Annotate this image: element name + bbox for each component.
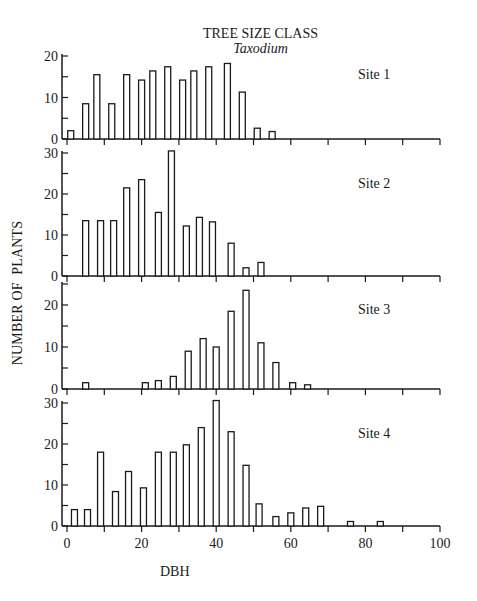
y-tick-label: 20 [44,298,58,313]
x-axis-label: DBH [160,564,190,580]
y-tick-label: 20 [44,187,58,202]
histogram-bar [155,381,161,389]
histogram-bar [228,311,234,389]
histogram-bar [150,71,156,139]
histogram-bar [318,506,324,526]
histogram-bar [98,221,104,276]
histogram-bar [228,243,234,276]
y-tick-label: 20 [44,437,58,452]
histogram-bar [98,452,104,526]
histogram-bar [258,343,264,389]
y-tick-label: 30 [44,396,58,411]
histogram-bar [254,128,260,139]
chart-subtitle: Taxodium [22,41,477,57]
histogram-bar [139,180,145,276]
histogram-bar [165,67,171,139]
histogram-bar [243,268,249,276]
y-axis-label: NUMBER OF PLANTS [10,208,26,378]
histogram-bar [142,383,148,389]
site-1-label: Site 1 [358,67,390,83]
histogram-bar [305,385,311,389]
histogram-bar [224,63,230,139]
histogram-bar [180,80,186,139]
histogram-bar [269,132,275,139]
histogram-bar [85,510,91,526]
y-tick-label: 0 [51,382,58,397]
histogram-bar [185,351,191,389]
histogram-bar [170,376,176,389]
histogram-bar [209,222,215,276]
x-tick-label: 60 [284,536,298,551]
y-tick-label: 10 [44,340,58,355]
histogram-bar [288,513,294,526]
x-tick-label: 80 [358,536,372,551]
y-tick-label: 0 [51,519,58,534]
y-tick-label: 10 [44,228,58,243]
histogram-bar [71,510,77,526]
histogram-bar [243,465,249,526]
histogram-bar [83,383,89,389]
histogram-bar [206,67,212,139]
y-tick-label: 30 [44,146,58,161]
histogram-bar [112,492,118,526]
histogram-bar [83,104,89,139]
histogram-bar [124,75,130,139]
histogram-bar [239,92,245,139]
site-4-label: Site 4 [358,426,390,442]
histogram-bar [139,80,145,139]
histogram-bar [94,75,100,139]
y-tick-label: 0 [51,269,58,284]
x-tick-label: 100 [430,536,451,551]
histogram-bar [124,188,130,276]
histogram-bar [126,471,132,526]
histogram-bar [213,347,219,389]
histogram-bar [347,521,353,526]
histogram-bar [109,104,115,139]
histogram-bar [377,521,383,526]
histogram-bar [200,339,206,389]
histogram-bar [290,383,296,389]
histogram-bar [256,504,262,526]
histogram-bar [258,262,264,276]
histogram-bar [303,508,309,526]
histogram-bar [83,221,89,276]
histogram-bar [196,217,202,276]
histogram-chart: 010200102030010200102030020406080100 [0,0,477,601]
x-tick-label: 20 [135,536,149,551]
histogram-bar [228,432,234,526]
histogram-bar [198,428,204,526]
histogram-bar [170,452,176,526]
histogram-bar [273,363,279,389]
histogram-bar [191,71,197,139]
chart-title: TREE SIZE CLASS [22,26,477,42]
site-3-label: Site 3 [358,302,390,318]
y-tick-label: 10 [44,91,58,106]
x-tick-label: 40 [209,536,223,551]
x-tick-label: 0 [64,536,71,551]
histogram-bar [111,221,117,276]
histogram-bar [155,452,161,526]
histogram-bar [183,226,189,276]
histogram-bar [273,517,279,526]
site-2-label: Site 2 [358,176,390,192]
y-tick-label: 0 [51,132,58,147]
y-tick-label: 10 [44,478,58,493]
histogram-bar [155,212,161,276]
histogram-bar [140,488,146,526]
histogram-bar [68,131,74,139]
histogram-bar [183,445,189,526]
histogram-bar [243,290,249,389]
histogram-bar [213,401,219,526]
histogram-bar [168,151,174,276]
